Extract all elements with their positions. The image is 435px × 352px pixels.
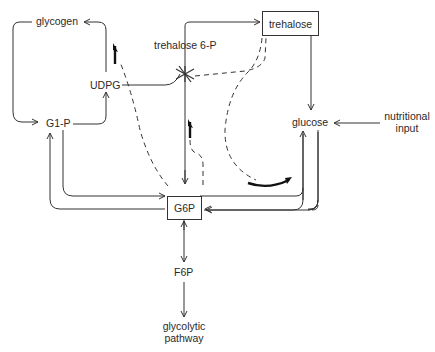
edge-g6p-right-top <box>200 188 303 196</box>
nutritional-input-line1: nutritional <box>382 110 432 122</box>
glycolytic-line2: pathway <box>158 332 210 344</box>
node-g1p: G1-P <box>46 117 71 129</box>
edge-glucose-to-g6p <box>204 134 303 210</box>
bold-arrowhead-t6p <box>188 119 193 128</box>
edge-udpg-to-glycogen <box>84 22 106 72</box>
bold-arrowhead-curved <box>285 177 292 184</box>
edge-glycogen-to-g1p <box>13 22 38 122</box>
node-trehalose: trehalose <box>269 18 312 30</box>
glycolytic-line1: glycolytic <box>158 320 210 332</box>
dashed-trehalose-to-bold-arrow <box>225 38 262 180</box>
node-glycolytic-pathway: glycolytic pathway <box>158 320 210 344</box>
trehalose-metabolism-diagram: glycogen trehalose trehalose 6-P UDPG G1… <box>0 0 435 352</box>
node-trehalose-box: trehalose <box>262 11 319 36</box>
edge-g1p-to-udpg <box>73 92 106 124</box>
dashed-g6p-to-udpg <box>120 62 168 186</box>
junction-asterisk <box>176 66 194 82</box>
node-f6p: F6P <box>174 266 193 278</box>
node-glycogen: glycogen <box>36 15 78 27</box>
edge-g6p-to-g1p <box>50 133 165 209</box>
edge-udpg-to-t6p <box>122 74 180 85</box>
edge-g6p-right-bottom <box>206 130 318 210</box>
node-g6p: G6P <box>174 202 195 214</box>
nutritional-input-line2: input <box>382 122 432 134</box>
node-nutritional-input: nutritional input <box>382 110 432 134</box>
edge-g1p-to-g6p <box>63 130 165 196</box>
node-g6p-box: G6P <box>167 196 202 220</box>
dashed-g6p-to-t6p-bold <box>190 128 203 185</box>
bold-arrowhead-glycogen <box>113 43 118 52</box>
node-udpg: UDPG <box>90 79 120 91</box>
bold-arrow-curved-to-glucose <box>248 180 289 186</box>
node-trehalose-6p: trehalose 6-P <box>154 39 216 51</box>
diagram-connectors <box>0 0 435 352</box>
node-glucose: glucose <box>292 116 328 128</box>
edge-glucose-return-to-g6p <box>205 132 316 209</box>
